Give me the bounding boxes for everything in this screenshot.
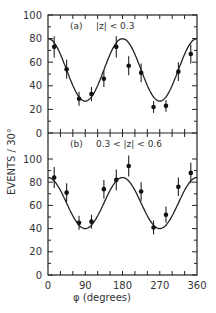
y-tick-label: 0 xyxy=(36,128,42,139)
data-point xyxy=(151,225,156,230)
data-point xyxy=(52,175,57,180)
x-tick-label: 90 xyxy=(79,280,92,291)
data-point xyxy=(102,187,107,192)
data-point xyxy=(188,171,193,176)
y-tick-label: 40 xyxy=(29,80,42,91)
data-point xyxy=(102,76,107,81)
data-point xyxy=(114,178,119,183)
data-point xyxy=(188,52,193,57)
y-tick-label: 60 xyxy=(29,57,42,68)
x-tick-label: 180 xyxy=(113,280,132,291)
y-tick-label: 20 xyxy=(29,104,42,115)
x-tick-label: 360 xyxy=(187,280,206,291)
data-point xyxy=(164,104,169,109)
data-point xyxy=(139,71,144,76)
data-point xyxy=(126,63,131,68)
data-point xyxy=(164,212,169,217)
y-tick-label: 100 xyxy=(23,10,42,21)
data-point xyxy=(139,189,144,194)
y-tick-label: 80 xyxy=(29,33,42,44)
y-tick-label: 100 xyxy=(23,154,42,165)
panel-b-cut-label: 0.3 < |z| < 0.6 xyxy=(96,139,162,149)
data-point xyxy=(114,45,119,50)
data-point xyxy=(176,69,181,74)
y-tick-label: 60 xyxy=(29,200,42,211)
data-point xyxy=(89,92,94,97)
data-point xyxy=(89,219,94,224)
panel-b-label: (b) xyxy=(70,139,83,149)
y-tick-label: 40 xyxy=(29,223,42,234)
x-axis-title: φ (degrees) xyxy=(73,292,131,303)
axis-tick-labels: 020406080100020406080100090180270360 xyxy=(23,10,207,292)
x-tick-label: 0 xyxy=(45,280,51,291)
y-tick-label: 80 xyxy=(29,177,42,188)
data-point xyxy=(64,67,69,72)
panel-a-cut-label: |z| < 0.3 xyxy=(96,21,134,31)
fit-curve xyxy=(48,39,197,102)
y-tick-label: 20 xyxy=(29,246,42,257)
chart: 020406080100020406080100090180270360 (a)… xyxy=(0,0,216,313)
data-point xyxy=(77,221,82,226)
data-point xyxy=(64,190,69,195)
y-tick-label: 0 xyxy=(36,270,42,281)
data-point xyxy=(176,185,181,190)
data-point xyxy=(151,105,156,110)
fit-curve xyxy=(48,178,197,229)
x-tick-label: 270 xyxy=(150,280,169,291)
y-axis-title: EVENTS / 30° xyxy=(6,128,17,195)
panel-a-label: (a) xyxy=(70,21,83,31)
data-point xyxy=(52,45,57,50)
data-point xyxy=(77,96,82,101)
data-point xyxy=(126,164,131,169)
